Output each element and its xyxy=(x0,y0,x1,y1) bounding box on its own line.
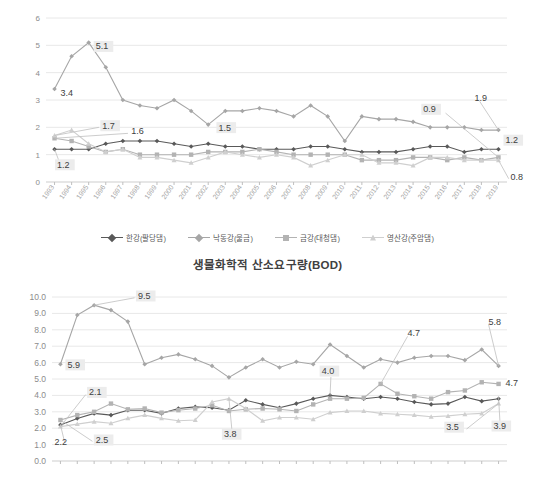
x-axis-tick-label: 2017 xyxy=(450,183,465,200)
callout-value: 2.5 xyxy=(96,435,109,445)
data-point-nakdong xyxy=(479,128,484,133)
data-point-geum xyxy=(142,406,146,410)
x-axis-tick-label: 1996 xyxy=(92,183,107,200)
x-axis-tick-label: 2004 xyxy=(229,183,244,200)
data-point-geum xyxy=(429,396,433,400)
data-point-geum xyxy=(308,152,312,156)
x-axis-tick-label: 2002 xyxy=(194,183,209,200)
data-point-nakdong xyxy=(243,365,248,370)
x-axis-tick-label: 1999 xyxy=(143,183,158,200)
data-point-nakdong xyxy=(377,117,382,122)
data-point-geum xyxy=(75,413,79,417)
legend-item-geum[interactable]: 금강(대청댐) xyxy=(275,232,340,243)
data-point-geum xyxy=(311,402,315,406)
y-axis-tick-label: 8.0 xyxy=(34,325,46,335)
y-axis-tick-label: 2 xyxy=(36,123,41,132)
data-point-geum xyxy=(257,147,261,151)
data-point-han xyxy=(377,150,382,155)
data-point-han xyxy=(395,396,400,401)
callout-nakdong-start: 3.4 xyxy=(61,88,74,98)
callout-leader xyxy=(60,395,85,427)
data-point-han xyxy=(412,400,417,405)
x-axis-tick-label: 1995 xyxy=(75,183,90,200)
callout-value: 5.8 xyxy=(488,317,501,327)
callout-value: 5.1 xyxy=(96,41,109,51)
y-axis-tick-label: 2.0 xyxy=(34,423,46,433)
callout-value: 1.7 xyxy=(102,121,115,131)
data-point-nakdong xyxy=(429,354,434,359)
y-axis-tick-label: 1.0 xyxy=(34,440,46,450)
callout-nakdong-peak: 5.1 xyxy=(94,41,114,52)
callout-nakdong-end: 5.8 xyxy=(488,317,501,327)
x-axis-tick-label: 2001 xyxy=(177,183,192,200)
legend-item-nakdong[interactable]: 낙동강(물금) xyxy=(188,232,253,243)
callout-han-end: 1.2 xyxy=(503,135,523,146)
data-point-geum xyxy=(294,409,298,413)
callout-yeongsan-end: 3.5 xyxy=(444,422,464,433)
data-point-nakdong xyxy=(411,120,416,125)
data-point-nakdong xyxy=(257,106,262,111)
callout-geum-end: 4.7 xyxy=(506,378,519,388)
callout-leader xyxy=(94,298,134,305)
data-point-geum xyxy=(378,382,382,386)
chart-bottom-canvas: 0.01.02.03.04.05.06.07.08.09.010.09.55.9… xyxy=(0,285,535,483)
y-axis-tick-label: 7.0 xyxy=(34,341,46,351)
legend-marker-diamond-icon xyxy=(101,234,123,242)
data-point-han xyxy=(394,150,399,155)
x-axis-tick-label: 2019 xyxy=(485,183,500,200)
legend-item-yeongsan[interactable]: 영산강(주암댐) xyxy=(362,232,434,243)
data-point-han xyxy=(496,147,501,152)
y-axis-tick-label: 3.0 xyxy=(34,407,46,417)
data-point-han xyxy=(240,144,245,149)
chart-top: 0123456199319941995199619971998199920002… xyxy=(0,0,535,252)
data-point-geum xyxy=(395,392,399,396)
callout-nakdong-peak: 9.5 xyxy=(136,290,156,301)
x-axis-tick-label: 2005 xyxy=(246,183,261,200)
data-point-han xyxy=(206,141,211,146)
data-point-han xyxy=(109,413,114,418)
callout-leader xyxy=(488,324,498,366)
callout-leader xyxy=(498,160,508,179)
callout-geum-end: 0.9 xyxy=(421,104,441,115)
callout-leader xyxy=(330,377,331,395)
callout-geum-start: 1.6 xyxy=(131,126,144,136)
data-point-nakdong xyxy=(446,354,451,359)
callout-yeongsan-start: 1.7 xyxy=(100,120,120,131)
data-point-han xyxy=(291,147,296,152)
callout-han-start: 2.2 xyxy=(55,437,68,447)
data-point-han xyxy=(260,402,265,407)
x-axis-tick-label: 2013 xyxy=(382,183,397,200)
data-point-han xyxy=(311,396,316,401)
y-axis-tick-label: 1 xyxy=(36,151,41,160)
data-point-yeongsan xyxy=(69,128,74,133)
data-point-geum xyxy=(92,410,96,414)
callout-han-end: 3.9 xyxy=(492,421,512,432)
chart-title: 생물화학적 산소요구량(BOD) xyxy=(0,256,535,272)
bod-chart-page: 0123456199319941995199619971998199920002… xyxy=(0,0,535,483)
x-axis-tick-label: 2006 xyxy=(263,183,278,200)
data-point-geum xyxy=(109,401,113,405)
data-point-geum xyxy=(360,158,364,162)
data-point-yeongsan xyxy=(142,413,147,418)
legend-item-han[interactable]: 한강(팔당댐) xyxy=(101,232,166,243)
legend-label: 영산강(주암댐) xyxy=(387,232,434,243)
data-point-geum xyxy=(362,396,366,400)
callout-yeongsan-end: 0.8 xyxy=(510,172,523,182)
data-point-han xyxy=(138,139,143,144)
legend-label: 금강(대청댐) xyxy=(300,232,340,243)
callout-value: 4.7 xyxy=(506,378,519,388)
data-point-nakdong xyxy=(240,109,245,114)
data-point-han xyxy=(189,144,194,149)
callout-geum-start: 2.5 xyxy=(94,434,114,445)
callout-value: 1.2 xyxy=(57,160,70,170)
x-axis-tick-label: 2011 xyxy=(348,183,362,199)
data-point-geum xyxy=(446,390,450,394)
data-point-nakdong xyxy=(193,357,198,362)
y-axis-tick-label: 9.0 xyxy=(34,308,46,318)
data-point-geum xyxy=(463,388,467,392)
data-point-geum xyxy=(260,406,264,410)
data-point-han xyxy=(446,401,451,406)
y-axis-tick-label: 4 xyxy=(36,69,41,78)
data-point-han xyxy=(479,147,484,152)
data-point-geum xyxy=(126,407,130,411)
